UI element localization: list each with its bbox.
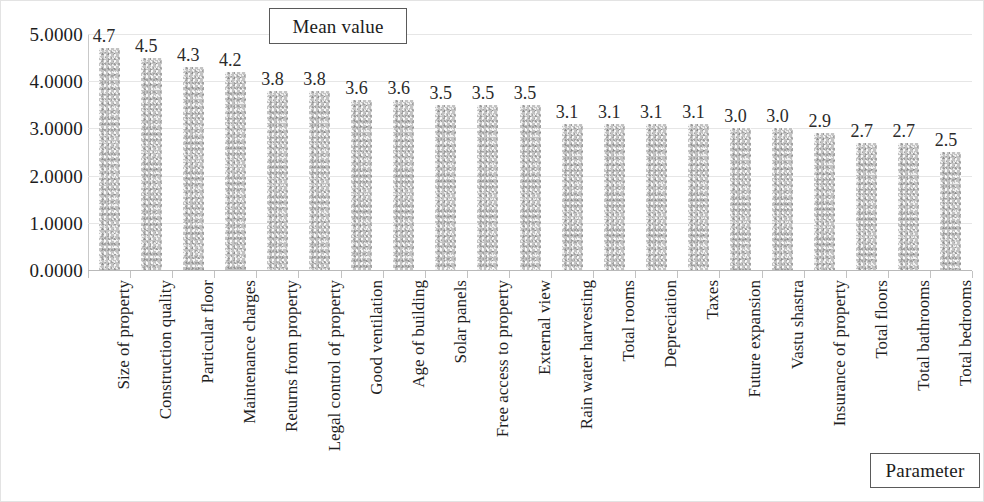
x-axis-category-label: Total bedrooms <box>957 280 974 386</box>
bar-value-label: 2.7 <box>887 122 921 140</box>
chart-figure: 0.00001.00002.00003.00004.00005.0000 4.7… <box>0 0 984 502</box>
x-axis-category-label: Future expansion <box>746 280 763 398</box>
bar-value-label: 4.5 <box>129 37 163 55</box>
x-axis-category-label: Good ventilation <box>368 280 385 395</box>
x-axis-category-label: Age of building <box>410 280 427 388</box>
x-axis-category-label: Rain water harvesting <box>578 280 595 429</box>
y-axis-tick-label: 4.0000 <box>5 72 83 91</box>
bar-value-label: 2.7 <box>845 122 879 140</box>
x-axis-tick-mark <box>88 271 89 278</box>
x-axis-tick-mark <box>509 271 510 278</box>
bar-value-label: 3.8 <box>298 70 332 88</box>
bar <box>99 48 120 270</box>
y-axis-tick-label: 2.0000 <box>5 166 83 185</box>
bar-value-label: 4.2 <box>213 51 247 69</box>
x-axis-tick-mark <box>972 271 973 278</box>
x-axis-category-label: Size of property <box>115 280 132 390</box>
x-axis-category-label: Vastu shastra <box>789 280 806 369</box>
bar <box>688 124 709 270</box>
bar <box>267 91 288 270</box>
x-axis-tick-mark <box>467 271 468 278</box>
bar <box>183 67 204 270</box>
x-axis-category-label: Legal control of property <box>326 280 343 451</box>
bar <box>562 124 583 270</box>
x-axis-tick-mark <box>762 271 763 278</box>
bar <box>309 91 330 270</box>
x-axis-tick-mark <box>551 271 552 278</box>
bar <box>141 58 162 270</box>
plot-area: 4.74.54.34.23.83.83.63.63.53.53.53.13.13… <box>88 34 972 270</box>
bar <box>772 128 793 270</box>
x-axis-tick-mark <box>298 271 299 278</box>
bar-value-label: 3.1 <box>676 103 710 121</box>
x-axis-tick-mark <box>804 271 805 278</box>
bar <box>856 143 877 270</box>
x-axis-tick-mark <box>383 271 384 278</box>
y-axis-tick-label: 5.0000 <box>5 25 83 44</box>
bar-value-label: 3.8 <box>255 70 289 88</box>
bar-value-label: 3.5 <box>424 84 458 102</box>
y-axis-line <box>88 34 89 270</box>
x-axis-category-label: Total floors <box>873 280 890 359</box>
x-axis-category-label: Maintenance charges <box>241 280 258 424</box>
x-axis-category-label: Solar panels <box>452 280 469 364</box>
bar-value-label: 3.1 <box>634 103 668 121</box>
x-axis-tick-mark <box>256 271 257 278</box>
y-axis-tick-label: 3.0000 <box>5 119 83 138</box>
x-axis-title-parameter: Parameter <box>870 453 980 488</box>
legend-mean-value: Mean value <box>269 8 407 44</box>
x-axis-category-label: Free access to property <box>494 280 511 437</box>
x-axis-tick-mark <box>593 271 594 278</box>
x-axis-tick-mark <box>677 271 678 278</box>
bar-value-label: 4.3 <box>171 46 205 64</box>
bar-value-label: 3.5 <box>466 84 500 102</box>
x-axis-category-label: Taxes <box>704 280 721 319</box>
x-axis-tick-mark <box>130 271 131 278</box>
bar <box>477 105 498 270</box>
x-axis-tick-mark <box>425 271 426 278</box>
bar-value-label: 3.5 <box>508 84 542 102</box>
x-axis-category-label: Total rooms <box>620 280 637 361</box>
x-axis-tick-mark <box>719 271 720 278</box>
bar <box>940 152 961 270</box>
x-axis-tick-mark <box>888 271 889 278</box>
bar-value-label: 3.1 <box>592 103 626 121</box>
bar <box>435 105 456 270</box>
x-axis-category-label: Depreciation <box>662 280 679 368</box>
y-axis-tick-label: 0.0000 <box>5 261 83 280</box>
bar <box>520 105 541 270</box>
bar-value-label: 2.9 <box>803 112 837 130</box>
y-axis-tick-labels: 0.00001.00002.00003.00004.00005.0000 <box>1 1 83 501</box>
bar-value-label: 3.6 <box>382 79 416 97</box>
x-axis-line <box>88 270 972 271</box>
x-axis-tick-mark <box>341 271 342 278</box>
x-axis-category-label: Insurance of property <box>831 280 848 426</box>
bar-value-label: 3.0 <box>718 107 752 125</box>
x-axis-category-label: Particular floor <box>199 280 216 383</box>
bar <box>393 100 414 270</box>
x-axis-category-label: Returns from property <box>283 280 300 432</box>
x-axis-category-label: Total bathrooms <box>915 280 932 391</box>
x-axis-category-label: Construction quality <box>157 280 174 419</box>
y-axis-tick-label: 1.0000 <box>5 213 83 232</box>
bar <box>604 124 625 270</box>
bar <box>730 128 751 270</box>
bar <box>646 124 667 270</box>
x-axis-tick-mark <box>846 271 847 278</box>
bar-value-label: 3.1 <box>550 103 584 121</box>
x-axis-tick-mark <box>635 271 636 278</box>
bar-value-label: 4.7 <box>87 27 121 45</box>
bar <box>898 143 919 270</box>
bar <box>814 133 835 270</box>
bar-value-label: 3.0 <box>761 107 795 125</box>
bar <box>225 72 246 270</box>
x-axis-tick-mark <box>214 271 215 278</box>
x-axis-category-label: External view <box>536 280 553 375</box>
x-axis-tick-mark <box>172 271 173 278</box>
gridline <box>88 34 972 35</box>
bar <box>351 100 372 270</box>
x-axis-tick-mark <box>930 271 931 278</box>
bar-value-label: 2.5 <box>929 131 963 149</box>
bar-value-label: 3.6 <box>340 79 374 97</box>
